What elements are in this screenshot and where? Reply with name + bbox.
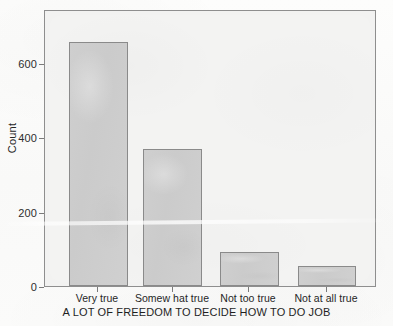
y-axis-tick-label-200: 200	[0, 207, 37, 219]
y-axis-tick-mark-0	[39, 287, 44, 288]
y-axis-tick-label-0: 0	[0, 281, 37, 293]
chart-page: 600 400 200 0 Count Very true Somew hat …	[0, 0, 393, 326]
plot-area	[44, 10, 376, 287]
bar-not-at-all-true[interactable]	[298, 266, 356, 286]
y-axis-tick-label-600: 600	[0, 58, 37, 70]
x-axis-title: A LOT OF FREEDOM TO DECIDE HOW TO DO JOB	[0, 306, 393, 318]
bar-not-too-true[interactable]	[220, 252, 279, 286]
y-axis-title: Count	[6, 108, 18, 168]
bar-very-true[interactable]	[69, 42, 128, 286]
x-axis-tick-label-not-at-all-true: Not at all true	[275, 292, 377, 304]
bar-somewhat-true[interactable]	[143, 149, 202, 286]
